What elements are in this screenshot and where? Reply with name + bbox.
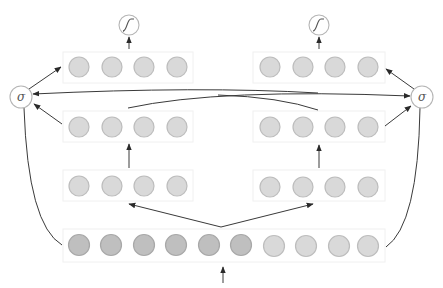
- neuron: [102, 117, 122, 137]
- right-sigma-label: σ: [418, 90, 427, 104]
- left-sigma-gate: σ: [10, 86, 32, 108]
- right-hidden2-to-gate-arrow: [385, 106, 411, 126]
- left-cross-tail: [218, 95, 318, 110]
- neuron: [358, 177, 378, 197]
- neuron: [293, 117, 313, 137]
- neuron: [293, 57, 313, 77]
- left-tower-to-right-gate-arrow: [128, 94, 410, 108]
- left-hidden2-to-gate-arrow: [34, 104, 62, 124]
- neuron: [293, 177, 313, 197]
- input-to-right-hidden1-arrow: [221, 204, 313, 227]
- neuron: [329, 236, 350, 257]
- neuron: [296, 236, 317, 257]
- left-gate-to-output-arrow: [29, 67, 61, 89]
- multi-task-network-diagram: σ σ: [0, 0, 443, 288]
- right-sigmoid-output: [309, 15, 329, 35]
- sigmoid-curve-icon: [119, 15, 139, 35]
- input-to-left-hidden1-arrow: [129, 204, 221, 227]
- neuron: [325, 177, 345, 197]
- neuron: [69, 57, 89, 77]
- left-sigma-label: σ: [17, 90, 26, 104]
- right-sigma-gate: σ: [411, 86, 433, 108]
- sigmoid-curve-icon: [309, 15, 329, 35]
- neuron: [134, 176, 154, 196]
- neuron: [102, 57, 122, 77]
- right-gate-to-output-arrow: [386, 69, 414, 89]
- left-sigmoid-output: [119, 15, 139, 35]
- neuron: [264, 236, 285, 257]
- neuron: [260, 177, 280, 197]
- neuron: [325, 57, 345, 77]
- neuron: [102, 176, 122, 196]
- neuron: [134, 117, 154, 137]
- neuron: [167, 57, 187, 77]
- neuron: [134, 57, 154, 77]
- neuron: [325, 117, 345, 137]
- neuron: [358, 57, 378, 77]
- neuron: [358, 117, 378, 137]
- neuron: [69, 176, 89, 196]
- input-to-left-gate-curve: [24, 108, 62, 245]
- neuron: [260, 57, 280, 77]
- input-to-right-gate-curve: [386, 108, 420, 247]
- neuron: [358, 236, 379, 257]
- right-tower-to-left-gate-arrow: [33, 90, 318, 94]
- neuron-shared: [231, 235, 252, 256]
- neuron-shared: [134, 235, 155, 256]
- neuron: [260, 117, 280, 137]
- neuron-shared: [199, 235, 220, 256]
- neuron-shared: [69, 235, 90, 256]
- neuron: [167, 176, 187, 196]
- neuron: [167, 117, 187, 137]
- neuron-shared: [101, 235, 122, 256]
- neuron-shared: [166, 235, 187, 256]
- neuron: [69, 117, 89, 137]
